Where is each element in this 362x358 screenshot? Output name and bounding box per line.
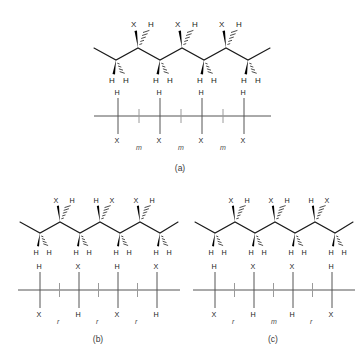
line-label-a-up-2: H — [157, 88, 162, 97]
line-label-b-up-1: H — [37, 262, 42, 271]
atom-label-b-bot-5: H — [114, 248, 119, 257]
line-label-c-down-4: X — [329, 310, 334, 319]
hash-bond-c-2 — [276, 206, 285, 219]
atom-label-b-top-3-h: H — [150, 196, 155, 205]
hash-bond-a-h4 — [249, 63, 256, 73]
dyad-label-a-1: m — [136, 144, 142, 151]
hash-bond-b-3 — [141, 206, 150, 219]
wedge-bond-c-h3 — [292, 233, 295, 246]
backbone-chain-c — [195, 222, 353, 233]
panel-caption-b: (b) — [78, 334, 118, 344]
hash-bond-a-h3 — [205, 63, 212, 73]
wedge-bond-c-h4 — [332, 233, 335, 246]
atom-label-a-top-2-h: H — [192, 20, 198, 29]
hash-bond-c-1 — [236, 206, 245, 219]
hash-bond-b-h3 — [121, 236, 128, 246]
zigzag-structure-a: X H X H X H H — [86, 8, 276, 88]
hash-bond-b-h2 — [81, 236, 88, 246]
line-label-c-up-3: X — [290, 262, 295, 271]
backbone-chain-b — [20, 222, 178, 233]
atom-label-a-top-1-x: X — [131, 20, 137, 29]
line-label-c-down-1: X — [212, 310, 217, 319]
panel-caption-c: (c) — [253, 334, 293, 344]
line-label-c-down-3: H — [290, 310, 295, 319]
atom-label-c-top-2-h: H — [285, 196, 290, 205]
line-structure-a: H H H H X X X X m m m — [90, 88, 275, 150]
atom-label-c-top-2-x: X — [269, 196, 274, 205]
panel-caption-a: (a) — [160, 163, 200, 173]
atom-label-c-bot-6: H — [302, 248, 307, 257]
dyad-label-b-3: r — [135, 318, 138, 325]
line-label-a-up-1: H — [115, 88, 120, 97]
wedge-bond-b-h3 — [117, 233, 120, 246]
line-label-c-down-2: H — [251, 310, 256, 319]
line-label-b-up-4: X — [154, 262, 159, 271]
panel-b-zigzag: X H H X X H H — [14, 186, 184, 258]
hash-bond-b-1 — [61, 206, 70, 219]
hash-bond-c-h3 — [296, 236, 303, 246]
hash-bond-b-2 — [101, 206, 110, 219]
hash-bond-c-h4 — [336, 236, 343, 246]
atom-label-b-bot-6: H — [127, 248, 132, 257]
line-label-b-down-3: X — [115, 310, 120, 319]
wedge-bond-a-h4 — [245, 60, 249, 75]
line-label-b-down-4: H — [154, 310, 159, 319]
wedge-bond-a-1 — [135, 31, 139, 49]
line-label-c-up-1: H — [212, 262, 217, 271]
atom-label-a-bot-1: H — [109, 76, 115, 85]
atom-label-a-bot-4: H — [167, 76, 173, 85]
line-label-b-up-2: X — [76, 262, 81, 271]
atom-label-b-top-2-x: X — [110, 196, 115, 205]
wedge-bond-a-h2 — [157, 60, 161, 75]
panel-c-linediagram: H X X H X H H X r m r — [189, 262, 359, 324]
atom-label-b-bot-4: H — [87, 248, 92, 257]
atom-label-a-top-3-x: X — [219, 20, 225, 29]
atom-label-c-bot-5: H — [289, 248, 294, 257]
panel-c-zigzag: X H X H H X H — [189, 186, 359, 258]
line-label-c-up-2: X — [251, 262, 256, 271]
hash-bond-c-h1 — [216, 236, 223, 246]
line-label-a-down-2: X — [157, 136, 162, 145]
line-structure-b: H X H X X H X H r r r — [14, 262, 184, 324]
atom-label-c-bot-1: H — [209, 248, 214, 257]
wedge-bond-b-2 — [97, 206, 100, 222]
atom-label-c-bot-4: H — [262, 248, 267, 257]
dyad-label-a-2: m — [178, 144, 184, 151]
hash-bond-c-3 — [316, 206, 325, 219]
atom-label-b-bot-1: H — [34, 248, 39, 257]
atom-label-b-top-2-h: H — [94, 196, 99, 205]
dyad-label-c-2: m — [271, 318, 277, 325]
dyad-label-a-3: m — [220, 144, 226, 151]
line-label-a-up-3: H — [199, 88, 204, 97]
wedge-bond-c-3 — [312, 206, 315, 222]
atom-label-a-top-2-x: X — [175, 20, 181, 29]
hash-bond-a-1 — [139, 30, 149, 44]
atom-label-b-bot-2: H — [47, 248, 52, 257]
atom-label-c-bot-8: H — [342, 248, 347, 257]
atom-label-b-bot-7: H — [154, 248, 159, 257]
dyad-label-c-1: r — [232, 318, 235, 325]
wedge-bond-a-3 — [223, 31, 227, 49]
wedge-bond-b-3 — [137, 206, 140, 222]
atom-label-a-top-1-h: H — [148, 20, 154, 29]
atom-label-c-bot-2: H — [222, 248, 227, 257]
wedge-bond-c-1 — [232, 206, 235, 222]
hash-bond-b-h1 — [41, 236, 48, 246]
dyad-label-b-2: r — [96, 318, 99, 325]
atom-label-b-top-1-x: X — [54, 196, 59, 205]
line-label-b-up-3: H — [115, 262, 120, 271]
atom-label-b-bot-3: H — [74, 248, 79, 257]
wedge-bond-c-2 — [272, 206, 275, 222]
wedge-bond-b-h2 — [77, 233, 80, 246]
panel-b-linediagram: H X H X X H X H r r r — [14, 262, 184, 324]
atom-label-b-top-3-x: X — [134, 196, 139, 205]
atom-label-a-bot-3: H — [153, 76, 159, 85]
hash-bond-b-h4 — [161, 236, 168, 246]
panel-a-zigzag: X H X H X H H — [86, 8, 276, 88]
wedge-bond-b-1 — [57, 206, 60, 222]
hash-bond-c-h2 — [256, 236, 263, 246]
wedge-bond-b-h1 — [37, 233, 40, 246]
atom-label-c-bot-3: H — [249, 248, 254, 257]
dyad-label-c-3: r — [310, 318, 313, 325]
dyad-label-b-1: r — [57, 318, 60, 325]
